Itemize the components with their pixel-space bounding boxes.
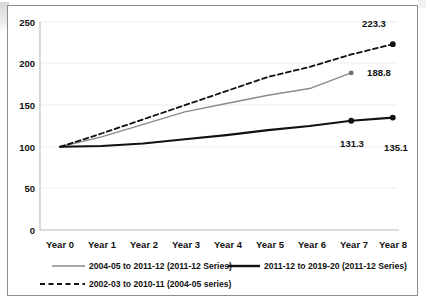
series-end-marker-1 [390,115,396,121]
y-tick-label: 150 [19,100,35,111]
x-tick-label: Year 8 [379,239,407,250]
legend-label-2[interactable]: 2002-03 to 2010-11 (2004-05 series) [89,279,232,289]
page-edge-shadow-right [418,0,426,8]
series-end-marker-0 [349,71,354,76]
x-axis-tick-labels: Year 0 Year 1 Year 2 Year 3 Year 4 Year … [46,239,407,250]
x-tick-label: Year 2 [130,239,158,250]
data-label-135-1: 135.1 [384,142,408,153]
data-label-131-3: 131.3 [340,138,364,149]
line-chart-plot: 250 200 150 100 50 0 Year 0 Year 1 Year … [7,5,418,296]
y-tick-label: 0 [30,225,35,236]
x-tick-label: Year 1 [88,239,117,250]
x-tick-label: Year 5 [256,239,285,250]
y-tick-label: 250 [19,17,35,28]
series-end-marker-2 [390,41,396,47]
chart-legend: 2004-05 to 2011-12 (2011-12 Series) 2011… [40,261,407,289]
legend-label-1[interactable]: 2011-12 to 2019-20 (2011-12 Series) [264,261,407,271]
y-tick-label: 50 [24,183,35,194]
x-tick-label: Year 7 [340,239,368,250]
x-tick-label: Year 0 [46,239,74,250]
legend-label-0[interactable]: 2004-05 to 2011-12 (2011-12 Series) [89,261,232,271]
y-tick-label: 100 [19,142,35,153]
data-point-labels: 223.3 188.8 131.3 135.1 [340,18,408,153]
series-line-2 [60,44,393,147]
chart-figure: 250 200 150 100 50 0 Year 0 Year 1 Year … [0,0,426,303]
data-series-layer [60,41,396,146]
x-tick-label: Year 3 [172,239,200,250]
x-tick-label: Year 6 [298,239,326,250]
data-label-188-8: 188.8 [367,67,391,78]
y-tick-label: 200 [19,58,35,69]
x-tick-label: Year 4 [214,239,243,250]
series-marker-1-year7 [348,118,354,124]
y-axis-tick-labels: 250 200 150 100 50 0 [19,17,35,236]
data-label-223-3: 223.3 [362,18,386,29]
series-line-0 [60,73,351,147]
